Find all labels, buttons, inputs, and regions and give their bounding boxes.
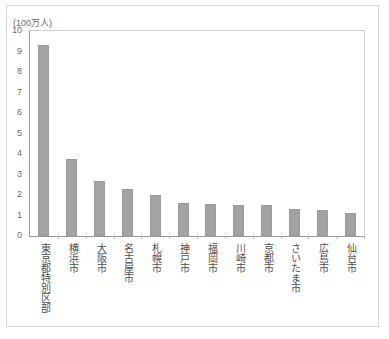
bar (205, 204, 216, 236)
x-axis-tick (141, 236, 142, 239)
bar (233, 205, 244, 236)
bar (345, 213, 356, 236)
y-axis-tick-8: 8 (0, 66, 26, 76)
y-axis-tick-6: 6 (0, 107, 26, 117)
x-axis-tick (336, 236, 337, 239)
x-axis-label: さいたま市 (288, 243, 301, 293)
x-axis-label: 福岡市 (204, 243, 217, 273)
x-axis-category-labels: 東京都特別区部横浜市大阪市名古屋市札幌市神戸市福岡市川崎市京都市さいたま市広島市… (30, 243, 364, 327)
y-axis-tick-labels: 109876543210 (0, 24, 26, 231)
x-axis-label: 広島市 (316, 243, 329, 273)
bar (289, 209, 300, 236)
x-axis-tick (58, 236, 59, 239)
bar (178, 203, 189, 236)
x-axis-label: 札幌市 (149, 243, 162, 273)
x-axis-tick (308, 236, 309, 239)
bar (122, 189, 133, 236)
x-axis-label: 京都市 (260, 243, 273, 273)
chart-screenshot: (100万人) 109876543210 東京都特別区部横浜市大阪市名古屋市札幌… (0, 0, 389, 339)
bar (66, 159, 77, 236)
y-axis-tick-9: 9 (0, 46, 26, 56)
y-axis-tick-4: 4 (0, 148, 26, 158)
y-axis-tick-1: 1 (0, 210, 26, 220)
x-axis-tick (197, 236, 198, 239)
x-axis-tick (114, 236, 115, 239)
x-axis-label: 名古屋市 (121, 243, 134, 283)
bar (94, 181, 105, 236)
x-axis-label: 仙台市 (344, 243, 357, 273)
bar (317, 210, 328, 236)
x-axis-label: 大阪市 (93, 243, 106, 273)
x-axis-tick (169, 236, 170, 239)
x-axis-tick (364, 236, 365, 239)
x-axis-label: 川崎市 (232, 243, 245, 273)
bar (261, 205, 272, 236)
y-axis-tick-5: 5 (0, 128, 26, 138)
x-axis-label: 神戸市 (177, 243, 190, 273)
y-axis-tick-10: 10 (0, 25, 26, 35)
y-axis-tick-2: 2 (0, 189, 26, 199)
y-axis-tick-7: 7 (0, 87, 26, 97)
x-axis-ticks (30, 236, 364, 240)
x-axis-tick (253, 236, 254, 239)
x-axis-label: 東京都特別区部 (37, 243, 50, 313)
x-axis-tick (225, 236, 226, 239)
bar-series (30, 31, 364, 236)
bar (150, 195, 161, 236)
x-axis-tick (281, 236, 282, 239)
x-axis-label: 横浜市 (65, 243, 78, 273)
bar (38, 45, 49, 236)
y-axis-tick-3: 3 (0, 169, 26, 179)
x-axis-tick (86, 236, 87, 239)
y-axis-tick-0: 0 (0, 230, 26, 240)
